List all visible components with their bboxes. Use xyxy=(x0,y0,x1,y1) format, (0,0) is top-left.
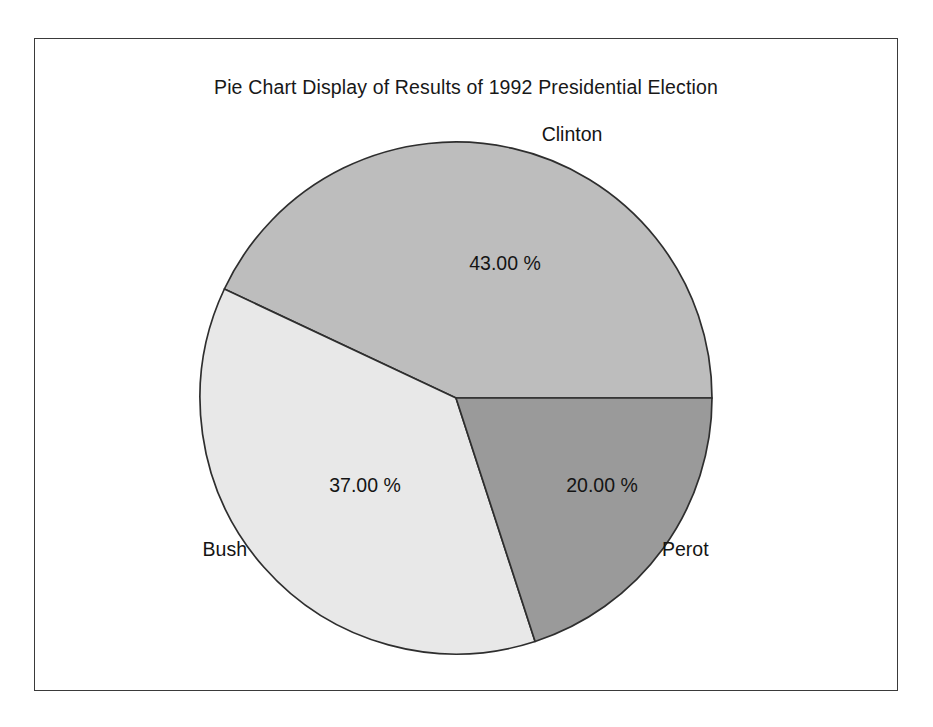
pie-category-label-bush: Bush xyxy=(203,538,247,560)
pie-chart: 43.00 % 37.00 % 20.00 % Clinton Bush Per… xyxy=(0,0,933,727)
pie-category-label-perot: Perot xyxy=(662,538,709,560)
pie-value-label-bush: 37.00 % xyxy=(329,474,401,496)
figure-root: Pie Chart Display of Results of 1992 Pre… xyxy=(0,0,933,727)
pie-value-label-perot: 20.00 % xyxy=(566,474,638,496)
pie-value-label-clinton: 43.00 % xyxy=(469,252,541,274)
pie-slices xyxy=(200,142,712,654)
pie-category-label-clinton: Clinton xyxy=(542,123,603,145)
